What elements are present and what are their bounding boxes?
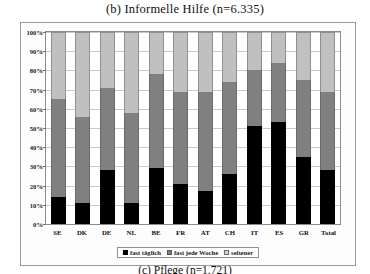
bottom-caption: (c) Pflege (n=1.721) bbox=[0, 264, 370, 274]
x-axis-tick-label: GR bbox=[296, 229, 311, 236]
bar-segment-seltener bbox=[247, 32, 262, 70]
x-axis-tick-label: AT bbox=[198, 229, 213, 236]
bar-segment-fast-taeglich bbox=[296, 157, 311, 224]
bar-segment-fast-taeglich bbox=[100, 170, 115, 224]
y-axis-tick-label: 0% bbox=[33, 221, 43, 228]
y-axis-tickmark bbox=[43, 224, 46, 225]
bar-segment-seltener bbox=[149, 32, 164, 74]
x-axis-tick-label: BE bbox=[148, 229, 163, 236]
bar-segment-seltener bbox=[75, 32, 90, 116]
y-axis-tick-label: 10% bbox=[30, 201, 43, 208]
bar-segment-fast-taeglich bbox=[149, 168, 164, 224]
bar-segment-fast-jede-woche bbox=[75, 117, 90, 203]
x-axis-tick-label: DK bbox=[74, 229, 89, 236]
bar-segment-fast-jede-woche bbox=[320, 92, 335, 171]
bar-segment-seltener bbox=[124, 32, 139, 113]
x-axis-tick-label: Total bbox=[321, 229, 336, 236]
x-axis-tick-label: SE bbox=[50, 229, 65, 236]
bar-segment-seltener bbox=[173, 32, 188, 92]
bar-column bbox=[320, 32, 335, 224]
bar-series-container bbox=[46, 32, 340, 224]
bar-segment-fast-jede-woche bbox=[222, 82, 237, 174]
bar-segment-fast-taeglich bbox=[173, 184, 188, 224]
bar-column bbox=[222, 32, 237, 224]
bar-segment-fast-taeglich bbox=[222, 174, 237, 224]
bar-segment-seltener bbox=[296, 32, 311, 80]
bar-segment-fast-jede-woche bbox=[296, 80, 311, 157]
y-axis-tick-label: 100% bbox=[27, 29, 43, 36]
figure-frame: 100%90%80%70%60%50%40%30%20%10%0% SEDKDE… bbox=[20, 22, 356, 266]
y-axis-tick-label: 40% bbox=[30, 144, 43, 151]
black-square-icon bbox=[123, 250, 128, 255]
bar-segment-fast-taeglich bbox=[271, 122, 286, 224]
bar-column bbox=[198, 32, 213, 224]
bar-column bbox=[149, 32, 164, 224]
legend-label-seltener: seltener bbox=[231, 249, 253, 256]
bar-segment-fast-taeglich bbox=[75, 203, 90, 224]
bar-segment-fast-jede-woche bbox=[100, 88, 115, 171]
chart-title: (b) Informelle Hilfe (n=6.335) bbox=[0, 2, 370, 17]
legend-label-fast-taeglich: fast täglich bbox=[130, 249, 161, 256]
y-axis-tick-label: 90% bbox=[30, 48, 43, 55]
bar-segment-fast-taeglich bbox=[320, 170, 335, 224]
bar-segment-seltener bbox=[198, 32, 213, 92]
bar-segment-fast-taeglich bbox=[51, 197, 66, 224]
x-axis-labels: SEDKDENLBEFRATCHITESGRTotal bbox=[45, 229, 341, 243]
legend-item-fast-taeglich: fast täglich bbox=[123, 249, 161, 256]
bar-column bbox=[173, 32, 188, 224]
bar-segment-fast-jede-woche bbox=[271, 63, 286, 123]
bar-segment-fast-jede-woche bbox=[198, 92, 213, 192]
bar-segment-seltener bbox=[51, 32, 66, 99]
y-axis-tick-label: 30% bbox=[30, 163, 43, 170]
bar-segment-fast-jede-woche bbox=[124, 113, 139, 203]
y-axis-tick-label: 20% bbox=[30, 182, 43, 189]
x-axis-tick-label: NL bbox=[124, 229, 139, 236]
bar-column bbox=[100, 32, 115, 224]
y-axis-tick-label: 50% bbox=[30, 125, 43, 132]
bar-segment-seltener bbox=[100, 32, 115, 88]
bar-segment-fast-taeglich bbox=[124, 203, 139, 224]
figure-root: (b) Informelle Hilfe (n=6.335) 100%90%80… bbox=[0, 0, 370, 274]
light-square-icon bbox=[224, 250, 229, 255]
y-axis-tick-label: 80% bbox=[30, 67, 43, 74]
plot-area: 100%90%80%70%60%50%40%30%20%10%0% bbox=[45, 31, 341, 225]
x-axis-tick-label: DE bbox=[99, 229, 114, 236]
x-axis-tick-label: ES bbox=[272, 229, 287, 236]
bar-column bbox=[51, 32, 66, 224]
legend-item-fast-jede-woche: fast jede Woche bbox=[167, 249, 218, 256]
bar-segment-seltener bbox=[271, 32, 286, 63]
bar-column bbox=[271, 32, 286, 224]
legend-item-seltener: seltener bbox=[224, 249, 253, 256]
bar-column bbox=[247, 32, 262, 224]
bar-segment-fast-jede-woche bbox=[149, 74, 164, 168]
bar-segment-fast-taeglich bbox=[247, 126, 262, 224]
bar-segment-fast-jede-woche bbox=[51, 99, 66, 197]
bar-column bbox=[75, 32, 90, 224]
x-axis-tick-label: IT bbox=[247, 229, 262, 236]
bar-segment-fast-jede-woche bbox=[247, 70, 262, 126]
legend-label-fast-jede-woche: fast jede Woche bbox=[174, 249, 218, 256]
y-axis-tick-label: 70% bbox=[30, 86, 43, 93]
x-axis-tick-label: CH bbox=[222, 229, 237, 236]
y-axis-tick-label: 60% bbox=[30, 105, 43, 112]
gridline bbox=[46, 224, 340, 225]
x-axis-tick-label: FR bbox=[173, 229, 188, 236]
bar-column bbox=[296, 32, 311, 224]
bar-segment-seltener bbox=[222, 32, 237, 82]
chart-legend: fast täglich fast jede Woche seltener bbox=[117, 247, 259, 258]
bar-segment-fast-taeglich bbox=[198, 191, 213, 224]
bar-segment-fast-jede-woche bbox=[173, 92, 188, 184]
bar-segment-seltener bbox=[320, 32, 335, 92]
gray-square-icon bbox=[167, 250, 172, 255]
bar-column bbox=[124, 32, 139, 224]
